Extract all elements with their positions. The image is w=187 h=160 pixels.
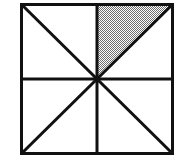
division-lines (20, 3, 174, 155)
shaded-fraction-diagram (0, 0, 187, 160)
figure-container (0, 0, 187, 160)
